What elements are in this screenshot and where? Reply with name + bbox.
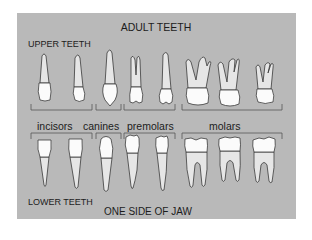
upper-incisor-2 [73, 55, 85, 102]
lower-premolar-1 [125, 135, 139, 189]
upper-incisor-1 [38, 54, 51, 101]
lower-canine [100, 137, 113, 192]
upper-molar-3 [256, 63, 274, 104]
upper-premolar-2 [159, 53, 173, 105]
group-label-canines: canines [83, 121, 119, 132]
lower-molar-2 [219, 137, 241, 182]
group-label-premolars: premolars [127, 121, 174, 132]
group-label-molars: molars [209, 121, 241, 132]
diagram-title: ADULT TEETH [0, 22, 312, 33]
lower-premolar-2 [156, 136, 169, 191]
upper-bracket-premolars [124, 104, 175, 110]
lower-bracket-incisors [31, 133, 92, 139]
upper-molar-1 [186, 57, 211, 105]
upper-bracket-canines [96, 104, 121, 110]
diagram-footer: ONE SIDE OF JAW [104, 207, 192, 217]
upper-premolar-1 [130, 56, 143, 103]
upper-molar-2 [218, 59, 240, 106]
lower-molar-1 [185, 138, 208, 187]
upper-bracket-incisors [31, 104, 92, 110]
lower-incisor-1 [38, 140, 52, 187]
upper-canine [103, 50, 118, 106]
lower-incisor-2 [69, 139, 83, 189]
lower-molar-3 [253, 137, 276, 183]
lower-teeth-label: LOWER TEETH [28, 198, 93, 207]
upper-teeth-label: UPPER TEETH [28, 40, 91, 49]
group-label-incisors: incisors [37, 121, 73, 132]
